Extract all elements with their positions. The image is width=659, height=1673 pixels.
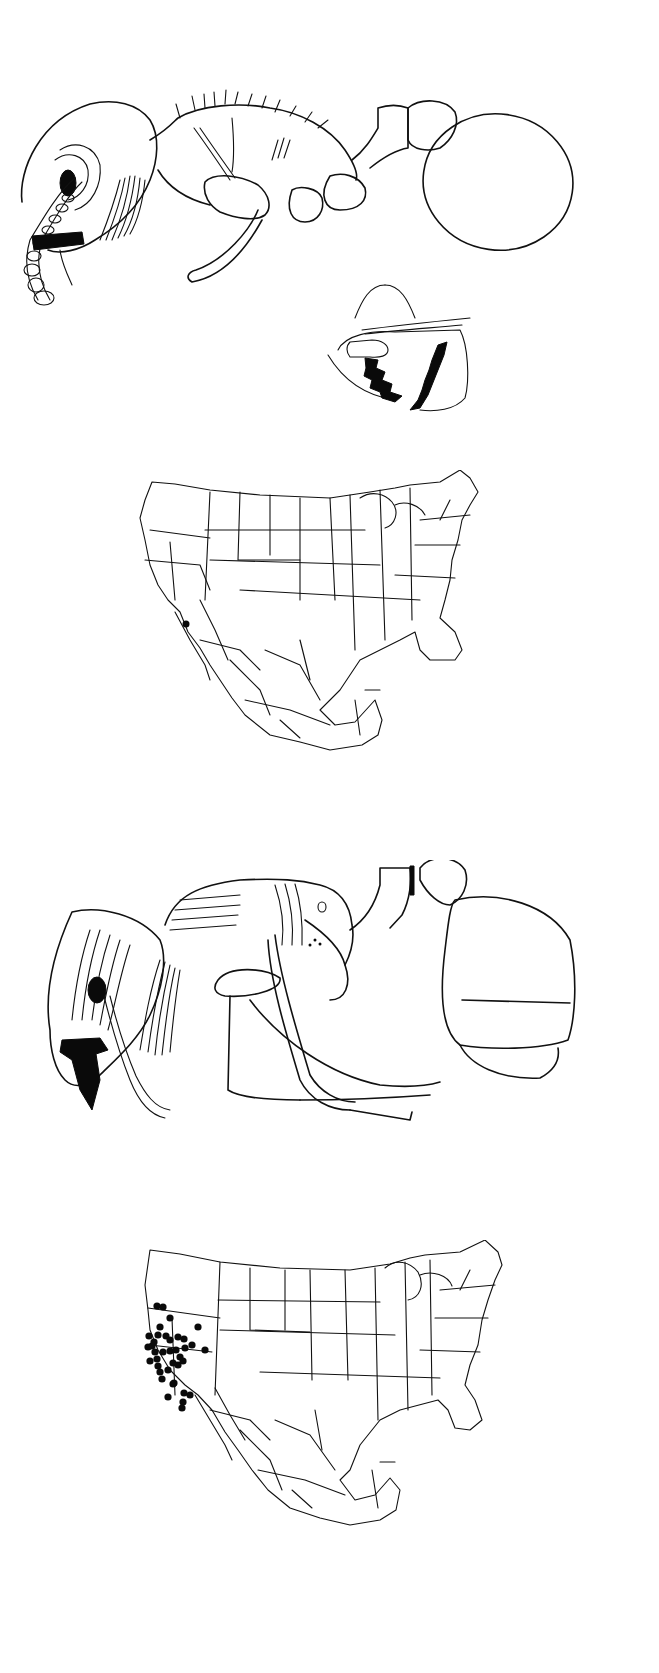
distribution-marker bbox=[179, 1357, 186, 1364]
distribution-marker bbox=[156, 1323, 163, 1330]
distribution-marker bbox=[153, 1302, 160, 1309]
map-usa-mexico-2 bbox=[130, 1240, 530, 1570]
distribution-marker bbox=[194, 1323, 201, 1330]
distribution-marker bbox=[164, 1393, 171, 1400]
distribution-marker bbox=[164, 1366, 171, 1373]
distribution-marker bbox=[151, 1348, 158, 1355]
distribution-marker bbox=[145, 1332, 152, 1339]
mandible-detail-illustration bbox=[310, 270, 490, 420]
distribution-marker bbox=[186, 1391, 193, 1398]
queen-ant-illustration bbox=[0, 860, 659, 1220]
distribution-marker bbox=[178, 1404, 185, 1411]
map-usa-mexico-1 bbox=[130, 470, 510, 790]
distribution-marker bbox=[179, 1398, 186, 1405]
distribution-marker bbox=[154, 1331, 161, 1338]
distribution-marker bbox=[170, 1379, 177, 1386]
distribution-marker bbox=[172, 1346, 179, 1353]
distribution-marker bbox=[158, 1375, 165, 1382]
distribution-map-2 bbox=[130, 1240, 530, 1570]
distribution-marker bbox=[153, 1355, 160, 1362]
distribution-marker bbox=[144, 1343, 151, 1350]
distribution-marker bbox=[166, 1347, 173, 1354]
queen-ant-drawing bbox=[0, 860, 659, 1220]
distribution-marker bbox=[188, 1341, 195, 1348]
distribution-marker bbox=[166, 1336, 173, 1343]
distribution-marker bbox=[150, 1338, 157, 1345]
distribution-marker bbox=[159, 1303, 166, 1310]
distribution-marker bbox=[156, 1368, 163, 1375]
distribution-marker bbox=[201, 1346, 208, 1353]
distribution-marker bbox=[181, 1344, 188, 1351]
distribution-marker bbox=[183, 621, 190, 628]
distribution-map-1 bbox=[130, 470, 510, 790]
distribution-marker bbox=[169, 1359, 176, 1366]
distribution-marker bbox=[159, 1348, 166, 1355]
distribution-markers bbox=[144, 1302, 208, 1411]
distribution-marker bbox=[146, 1357, 153, 1364]
mandible-detail-drawing bbox=[310, 270, 490, 420]
distribution-marker bbox=[180, 1335, 187, 1342]
distribution-marker bbox=[166, 1314, 173, 1321]
